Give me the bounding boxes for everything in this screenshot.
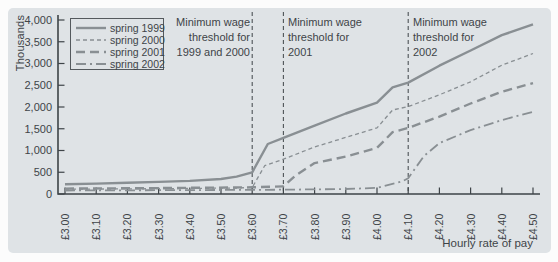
legend-item-spring-2001: spring 2001	[76, 46, 159, 58]
x-axis-title: Hourly rate of pay	[442, 237, 533, 249]
x-tick-label: £3.40	[184, 214, 196, 240]
x-tick-label: £3.90	[340, 214, 352, 240]
x-tick-label: £3.70	[277, 214, 289, 240]
x-tick-label: £4.10	[402, 214, 414, 240]
legend-label: spring 2002	[110, 58, 165, 70]
legend-item-spring-2000: spring 2000	[76, 34, 159, 46]
y-tick-label: 4,000	[24, 14, 52, 26]
legend-line-sample	[76, 61, 106, 67]
legend-line-sample	[76, 37, 106, 43]
x-tick-label: £3.00	[59, 214, 71, 240]
legend: spring 1999spring 2000spring 2001spring …	[70, 18, 164, 70]
legend-item-spring-1999: spring 1999	[76, 22, 159, 34]
series-line-spring-2000	[65, 54, 533, 190]
y-axis-title: Thousands	[14, 8, 28, 78]
annotation-threshold-1999-2000: Minimum wage threshold for 1999 and 2000	[176, 15, 250, 60]
x-tick-label: £3.80	[309, 214, 321, 240]
y-tick-label: 2,000	[24, 101, 52, 113]
legend-label: spring 1999	[110, 22, 165, 34]
series-line-spring-2001	[65, 83, 533, 189]
y-tick-label: 3,500	[24, 36, 52, 48]
annotation-threshold-2001: Minimum wage threshold for 2001	[288, 15, 362, 60]
legend-label: spring 2001	[110, 46, 165, 58]
x-tick-label: £3.20	[121, 214, 133, 240]
legend-line-sample	[76, 49, 106, 55]
y-tick-label: 0	[46, 188, 52, 200]
legend-label: spring 2000	[110, 34, 165, 46]
y-tick-label: 1,000	[24, 144, 52, 156]
x-tick-label: £4.00	[371, 214, 383, 240]
annotation-threshold-2002: Minimum wage threshold for 2002	[413, 15, 487, 60]
x-tick-label: £3.30	[153, 214, 165, 240]
legend-item-spring-2002: spring 2002	[76, 58, 159, 70]
legend-line-sample	[76, 25, 106, 31]
x-tick-label: £3.60	[246, 214, 258, 240]
y-tick-label: 1,500	[24, 123, 52, 135]
series-line-spring-2002	[65, 112, 533, 191]
y-tick-label: 3,000	[24, 57, 52, 69]
x-tick-label: £3.10	[90, 214, 102, 240]
y-tick-label: 2,500	[24, 79, 52, 91]
y-tick-label: 500	[34, 166, 52, 178]
x-tick-label: £3.50	[215, 214, 227, 240]
